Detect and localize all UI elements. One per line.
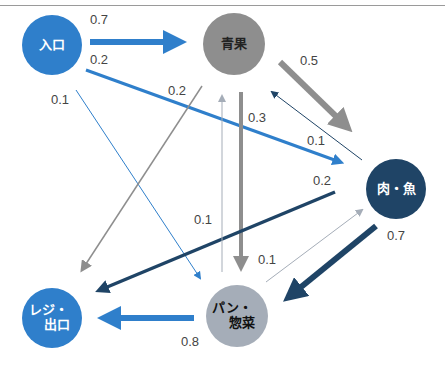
node-entrance-label: 入口 <box>39 38 65 53</box>
weight-meat-vegetables: 0.1 <box>307 133 325 148</box>
edge-vegetables-checkout <box>82 86 202 270</box>
node-checkout: レジ・ 出口 <box>22 288 82 348</box>
edge-meat-bread <box>290 226 376 296</box>
edge-vegetables-meat <box>280 62 346 126</box>
node-bread-deli: パン・ 惣菜 <box>206 285 268 347</box>
node-bread-deli-label-1: パン・ <box>212 301 252 316</box>
node-vegetables: 青果 <box>203 13 265 75</box>
weight-entrance-bread: 0.1 <box>51 92 69 107</box>
node-bread-deli-label-2: 惣菜 <box>229 316 255 331</box>
weight-bread-vegetables: 0.1 <box>194 212 212 227</box>
node-checkout-label-1: レジ・ <box>29 303 68 318</box>
weight-vegetables-bread: 0.3 <box>248 110 266 125</box>
weight-bread-checkout: 0.8 <box>181 334 199 349</box>
weight-entrance-meat: 0.2 <box>90 52 108 67</box>
weight-vegetables-checkout: 0.2 <box>168 83 186 98</box>
edge-meat-vegetables <box>272 92 362 160</box>
node-checkout-label-2: 出口 <box>44 318 70 333</box>
weight-meat-checkout: 0.2 <box>313 173 331 188</box>
node-meat-fish-label: 肉・魚 <box>377 182 416 197</box>
weight-meat-bread: 0.7 <box>387 228 405 243</box>
weight-entrance-vegetables: 0.7 <box>90 12 108 27</box>
weight-vegetables-meat: 0.5 <box>300 53 318 68</box>
node-entrance: 入口 <box>22 15 82 75</box>
edge-meat-checkout <box>100 192 335 290</box>
node-meat-fish: 肉・魚 <box>366 159 426 219</box>
weight-bread-meat: 0.1 <box>258 252 276 267</box>
node-vegetables-label: 青果 <box>221 37 247 52</box>
transition-diagram: 入口 青果 肉・魚 パン・ 惣菜 レジ・ 出口 0.7 0.2 0.1 0.5 … <box>0 0 445 368</box>
